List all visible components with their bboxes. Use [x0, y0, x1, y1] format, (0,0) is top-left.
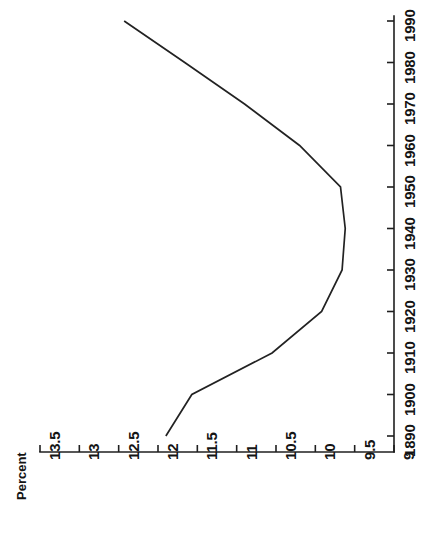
year-tick-label: 1940: [401, 217, 418, 250]
year-tick-label: 1980: [401, 51, 418, 84]
percent-tick-label: 12.5: [125, 432, 142, 460]
percent-tick-label: 10.5: [282, 432, 299, 460]
year-tick-label: 1930: [401, 258, 418, 291]
percent-tick-label: 11: [243, 445, 260, 460]
year-tick-label: 1920: [401, 300, 418, 333]
percent-tick-label: 9.5: [361, 440, 378, 460]
percent-tick-label: 13.5: [46, 432, 63, 460]
year-tick-label: 1910: [401, 341, 418, 374]
percent-tick-label: 13: [85, 444, 102, 460]
percent-tick-label: 12: [164, 444, 181, 460]
year-tick-label: 1890: [401, 424, 418, 457]
percent-tick-label: 10: [321, 444, 338, 460]
year-tick-label: 1990: [401, 9, 418, 42]
year-tick-label: 1960: [401, 134, 418, 167]
year-tick-label: 1970: [401, 92, 418, 125]
percent-tick-label: 11.5: [203, 432, 220, 460]
data-series-line: [124, 21, 345, 436]
year-tick-label: 1950: [401, 175, 418, 208]
year-tick-label: 1900: [401, 383, 418, 416]
percent-axis-title: Percent: [14, 452, 29, 500]
chart-container: 13.51312.51211.51110.5109.59 18901900191…: [0, 0, 426, 541]
year-axis-ticks: [387, 21, 394, 436]
